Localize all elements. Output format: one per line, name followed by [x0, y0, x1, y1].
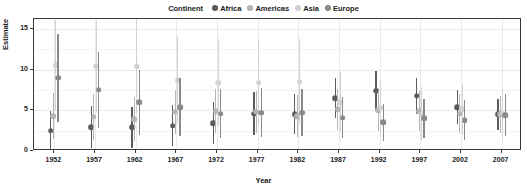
legend-title: Continent [168, 4, 203, 13]
circle-marker-icon [247, 5, 253, 11]
x-tick-mark [94, 150, 95, 153]
legend-item-europe[interactable]: Europe [325, 4, 359, 13]
gridline-horizontal [34, 29, 520, 30]
circle-marker-icon [212, 5, 218, 11]
x-tick-label: 1977 [249, 156, 265, 163]
x-tick-mark [338, 150, 339, 153]
legend: Continent Africa Americas Asia Europe [0, 0, 527, 16]
data-point [462, 117, 468, 123]
x-tick-label: 1957 [86, 156, 102, 163]
data-point [91, 114, 97, 120]
data-point [503, 112, 509, 118]
y-axis-title: Estimate [1, 19, 10, 50]
x-tick-label: 2007 [493, 156, 509, 163]
legend-item-asia[interactable]: Asia [295, 4, 319, 13]
data-point [137, 99, 143, 105]
y-tick-label: 10 [20, 65, 28, 72]
legend-item-americas[interactable]: Americas [247, 4, 289, 13]
legend-item-label: Africa [220, 4, 241, 13]
data-point [297, 79, 303, 85]
x-tick-label: 1972 [208, 156, 224, 163]
x-tick-mark [216, 150, 217, 153]
legend-item-label: Americas [255, 4, 289, 13]
data-point [55, 75, 61, 81]
gridline-horizontal-minor [34, 49, 520, 50]
data-point [218, 111, 224, 117]
legend-item-africa[interactable]: Africa [212, 4, 241, 13]
data-point [299, 110, 305, 116]
x-tick-label: 1967 [168, 156, 184, 163]
gridline-horizontal-minor [34, 90, 520, 91]
x-tick-mark [501, 150, 502, 153]
x-tick-mark [297, 150, 298, 153]
data-point [215, 80, 221, 86]
x-axis-title: Year [0, 176, 527, 185]
circle-marker-icon [325, 5, 331, 11]
data-point [381, 120, 387, 126]
data-point [259, 110, 265, 116]
x-tick-mark [135, 150, 136, 153]
y-tick-mark [30, 150, 33, 151]
y-tick-label: 0 [24, 146, 28, 153]
data-point [50, 113, 56, 119]
x-tick-label: 1982 [290, 156, 306, 163]
x-tick-label: 1952 [46, 156, 62, 163]
x-tick-mark [175, 150, 176, 153]
legend-item-label: Europe [333, 4, 359, 13]
gridline-horizontal-minor [34, 131, 520, 132]
chart-figure: Continent Africa Americas Asia Europe Es… [0, 0, 527, 188]
data-point [132, 116, 138, 122]
y-tick-label: 5 [24, 105, 28, 112]
plot-panel [33, 18, 521, 150]
y-tick-label: 15 [20, 24, 28, 31]
x-tick-mark [379, 150, 380, 153]
gridline-horizontal [34, 70, 520, 71]
data-point [421, 116, 427, 122]
circle-marker-icon [295, 5, 301, 11]
x-tick-label: 1987 [330, 156, 346, 163]
gridline-horizontal [34, 110, 520, 111]
x-tick-label: 1992 [371, 156, 387, 163]
x-tick-label: 1962 [127, 156, 143, 163]
x-tick-mark [460, 150, 461, 153]
data-point [340, 115, 346, 121]
data-point [96, 87, 102, 93]
x-tick-mark [53, 150, 54, 153]
data-point [256, 80, 262, 86]
x-tick-mark [257, 150, 258, 153]
x-tick-mark [419, 150, 420, 153]
data-point [134, 63, 140, 69]
x-tick-label: 2002 [452, 156, 468, 163]
data-point [177, 104, 183, 110]
legend-item-label: Asia [303, 4, 319, 13]
x-tick-label: 1997 [412, 156, 428, 163]
